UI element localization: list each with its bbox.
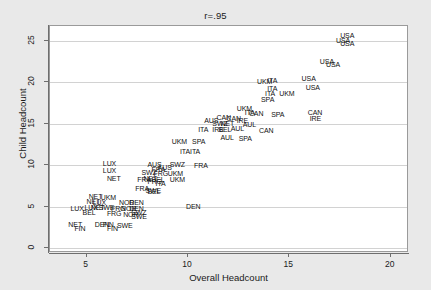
y-tick-label: 20 — [26, 71, 36, 91]
data-point-label: SWE — [117, 222, 133, 229]
x-tick-label: 20 — [378, 259, 402, 269]
data-point-label: SPA — [192, 138, 205, 145]
gridline — [50, 248, 407, 249]
y-tick-mark — [44, 40, 48, 41]
data-point-label: IRE — [310, 115, 321, 122]
data-point-label: CAN — [249, 110, 263, 117]
data-point-label: CAN — [259, 127, 273, 134]
plot-area: USAUSAUSAUSAUSAUSAUSAUKMITAITAITAUKMSPAU… — [49, 25, 408, 252]
y-tick-label: 25 — [26, 30, 36, 50]
data-point-label: SPA — [261, 96, 274, 103]
y-tick-label: 0 — [26, 237, 36, 257]
chart-figure: r=.95 Child Headcount Overall Headcount … — [0, 0, 431, 290]
data-point-label: SWZ — [170, 161, 185, 168]
x-tick-mark — [390, 253, 391, 257]
data-point-label: BEL — [218, 126, 231, 133]
x-tick-mark — [288, 253, 289, 257]
data-point-label: USA — [302, 75, 316, 82]
data-point-label: AUL — [220, 134, 233, 141]
data-point-label: DEN — [186, 203, 200, 210]
data-point-label: SPA — [271, 111, 284, 118]
y-tick-label: 10 — [26, 154, 36, 174]
y-tick-label: 5 — [26, 196, 36, 216]
data-point-label: USA — [326, 61, 340, 68]
data-point-label: FRG — [107, 210, 121, 217]
gridline — [50, 82, 407, 83]
data-point-label: UKM — [172, 138, 187, 145]
data-point-label: NET — [107, 175, 121, 182]
data-point-label: FIN — [107, 225, 118, 232]
data-point-label: USA — [306, 84, 320, 91]
data-point-label: UKM — [170, 176, 185, 183]
x-axis-line — [49, 253, 409, 254]
data-point-label: FRA — [194, 162, 208, 169]
data-point-label: BEL — [147, 188, 160, 195]
y-tick-mark — [44, 123, 48, 124]
y-tick-mark — [44, 81, 48, 82]
data-point-label: ITA — [190, 148, 200, 155]
data-point-label: ITA — [198, 126, 208, 133]
x-tick-label: 10 — [175, 259, 199, 269]
data-point-label: AUL — [243, 121, 256, 128]
data-point-label: UKM — [279, 90, 294, 97]
x-tick-mark — [187, 253, 188, 257]
chart-title: r=.95 — [0, 10, 431, 21]
data-point-label: FIN — [74, 225, 85, 232]
data-point-label: LUX — [103, 167, 116, 174]
data-point-label: SPA — [239, 135, 252, 142]
data-point-label: SWE — [131, 213, 147, 220]
x-axis-label: Overall Headcount — [49, 272, 408, 283]
x-tick-mark — [86, 253, 87, 257]
x-tick-label: 5 — [74, 259, 98, 269]
y-tick-label: 15 — [26, 113, 36, 133]
data-point-label: BEL — [83, 209, 96, 216]
data-point-label: ITA — [267, 77, 277, 84]
x-tick-label: 15 — [276, 259, 300, 269]
y-tick-mark — [44, 206, 48, 207]
data-point-label: ITA — [180, 148, 190, 155]
figure-bottom-margin — [0, 290, 431, 306]
data-point-label: AUL — [231, 125, 244, 132]
y-tick-mark — [44, 247, 48, 248]
y-tick-mark — [44, 164, 48, 165]
data-point-label: USA — [340, 40, 354, 47]
